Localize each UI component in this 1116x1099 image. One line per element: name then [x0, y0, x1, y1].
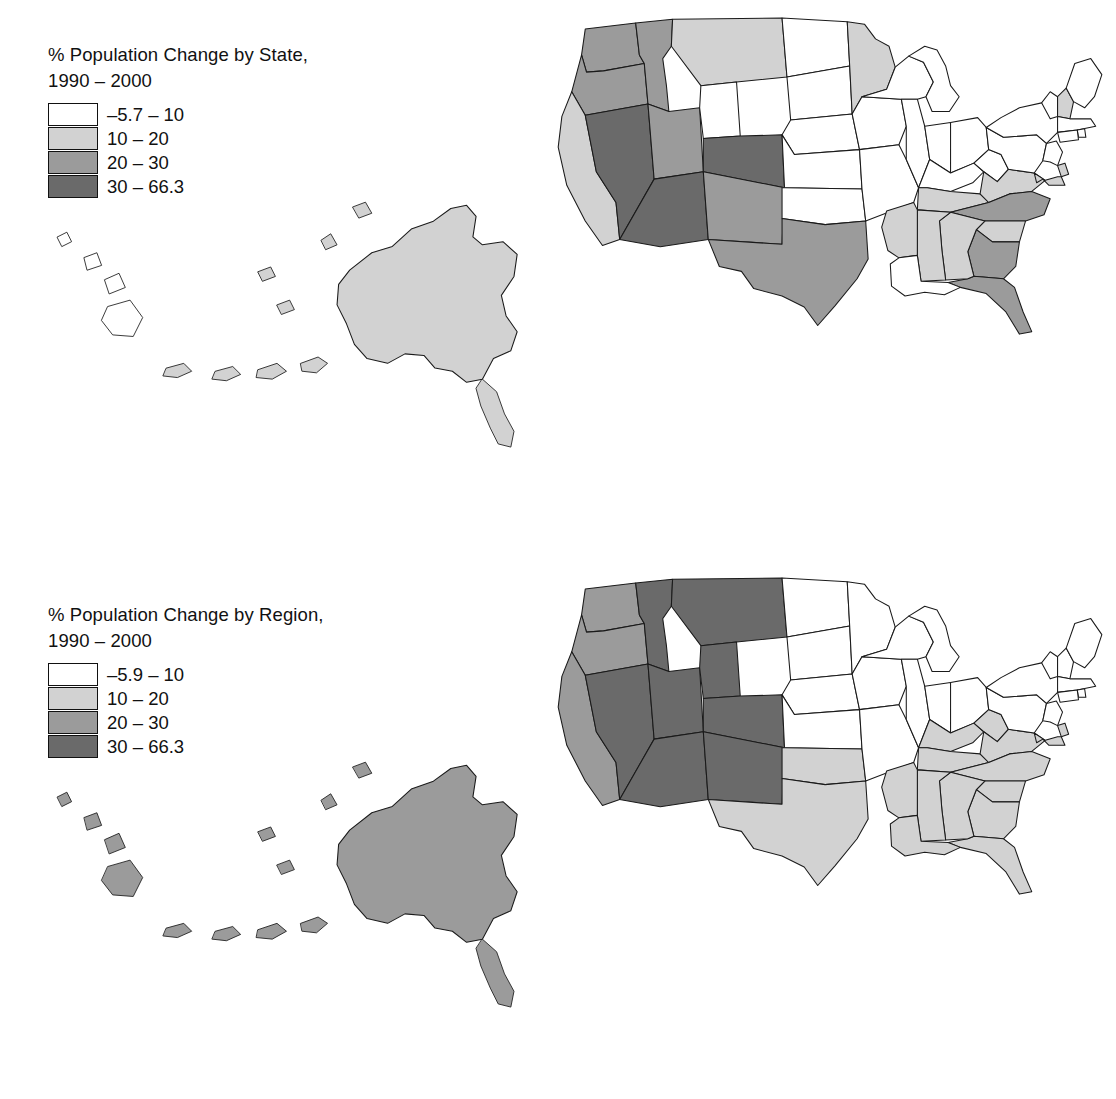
state-AK: [337, 205, 517, 382]
legend-item: 10 – 20: [48, 126, 308, 150]
legend-title-line2: 1990 – 2000: [48, 68, 308, 94]
state-IA: [852, 97, 906, 150]
legend-by-state: % Population Change by State, 1990 – 200…: [48, 42, 308, 198]
state-OH: [951, 678, 989, 733]
state-HI-part: [102, 300, 143, 336]
legend-swatch-class2: [48, 687, 98, 710]
state-AK-part: [277, 300, 294, 314]
state-TN: [917, 188, 988, 213]
state-HI-part: [102, 860, 143, 896]
state-HI-part: [57, 792, 71, 806]
state-PA: [986, 127, 1046, 173]
legend-swatch-class1: [48, 103, 98, 126]
state-TX: [708, 778, 868, 885]
legend-item: 20 – 30: [48, 710, 324, 734]
state-ME: [1066, 59, 1102, 108]
state-OK: [782, 748, 866, 785]
state-DE: [1058, 723, 1069, 737]
state-HI-part: [105, 833, 126, 854]
state-MS: [917, 210, 950, 281]
state-MA: [1058, 676, 1096, 692]
state-NJ: [1043, 701, 1063, 726]
state-AK-part: [353, 202, 372, 218]
state-NJ: [1043, 141, 1063, 166]
map-panel-by-state: % Population Change by State, 1990 – 200…: [0, 0, 1116, 560]
state-SC: [976, 781, 1025, 802]
state-WI: [862, 616, 933, 659]
state-LA: [890, 815, 960, 856]
legend-label-class3: 20 – 30: [107, 711, 169, 734]
state-MT: [671, 578, 787, 646]
state-SD: [787, 626, 852, 680]
state-AL: [939, 772, 985, 840]
legend-swatch-class3: [48, 711, 98, 734]
state-CO: [703, 135, 784, 188]
state-OK: [782, 188, 866, 225]
state-AZ: [620, 172, 709, 247]
state-OR: [572, 615, 648, 675]
state-WV: [974, 150, 1008, 182]
state-MS: [917, 770, 950, 841]
state-VA: [980, 169, 1045, 202]
legend-item: 10 – 20: [48, 686, 324, 710]
state-VA: [980, 729, 1045, 762]
state-ME: [1066, 619, 1102, 668]
state-RI: [1077, 129, 1086, 138]
state-VT: [1042, 652, 1058, 679]
legend-label-class1: –5.9 – 10: [107, 663, 184, 686]
legend-title-line2: 1990 – 2000: [48, 628, 324, 654]
state-CO: [703, 695, 784, 748]
state-NE: [782, 674, 859, 715]
state-KS: [782, 135, 862, 189]
state-UT: [648, 664, 703, 739]
legend-item: –5.7 – 10: [48, 102, 308, 126]
legend-swatch-class4: [48, 175, 98, 198]
state-AK-part: [476, 379, 514, 447]
state-AK: [337, 765, 517, 942]
state-AK-part: [163, 363, 191, 377]
state-AK-part: [212, 367, 240, 381]
legend-items: –5.9 – 10 10 – 20 20 – 30 30 – 66.3: [48, 662, 324, 758]
state-ND: [782, 18, 850, 77]
state-IA: [852, 657, 906, 710]
state-FL: [948, 276, 1032, 334]
map-panel-by-region: % Population Change by Region, 1990 – 20…: [0, 560, 1116, 1099]
state-CT: [1058, 690, 1079, 702]
state-ID: [636, 579, 673, 671]
state-AZ: [620, 732, 709, 807]
state-AK-part: [258, 827, 275, 841]
state-KS: [782, 695, 862, 749]
state-SD: [787, 66, 852, 120]
legend-label-class2: 10 – 20: [107, 127, 169, 150]
state-AR: [882, 763, 918, 818]
legend-swatch-class3: [48, 151, 98, 174]
state-MO: [860, 145, 919, 221]
state-RI: [1077, 689, 1086, 698]
state-WA: [582, 23, 645, 72]
state-WV: [974, 710, 1008, 742]
legend-label-class4: 30 – 66.3: [107, 735, 184, 758]
state-NM: [703, 732, 784, 805]
state-NY: [986, 663, 1067, 704]
legend-swatch-class2: [48, 127, 98, 150]
state-KY: [919, 719, 984, 751]
legend-label-class1: –5.7 – 10: [107, 103, 184, 126]
state-OR: [572, 55, 648, 115]
state-VT: [1042, 92, 1058, 119]
lower-48-group: [558, 578, 1102, 894]
state-NC: [951, 191, 1051, 221]
state-FL: [948, 836, 1032, 894]
state-MD: [1034, 173, 1065, 185]
state-MA: [1058, 116, 1096, 132]
state-HI-part: [105, 273, 126, 294]
state-SC: [976, 221, 1025, 242]
state-AK-part: [212, 927, 240, 941]
state-AK-part: [256, 363, 286, 379]
state-NM: [703, 172, 784, 245]
alaska-hawaii-inset-group: [57, 762, 517, 1007]
lower-48-group: [558, 18, 1102, 334]
state-AK-part: [321, 234, 337, 250]
state-AK-part: [476, 939, 514, 1007]
state-HI-part: [84, 813, 101, 830]
state-MI: [909, 46, 959, 111]
